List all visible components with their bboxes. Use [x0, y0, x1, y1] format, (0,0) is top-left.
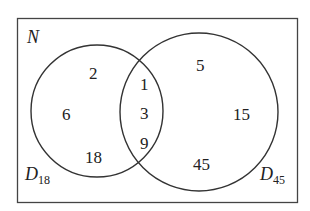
venn-diagram: N 2 6 18 1 3 9 5 15 45 D18 D45: [0, 0, 310, 211]
right-region-value: 45: [193, 155, 210, 174]
intersection-value: 9: [140, 134, 149, 153]
set-label-d18: D18: [24, 164, 50, 187]
universe-rectangle: [18, 19, 298, 203]
left-region-value: 18: [85, 148, 102, 167]
set-label-d45: D45: [259, 164, 285, 187]
intersection-value: 1: [140, 75, 149, 94]
left-region-value: 2: [89, 64, 98, 83]
universe-label: N: [26, 27, 40, 47]
right-region-value: 15: [233, 105, 250, 124]
left-region-value: 6: [62, 105, 71, 124]
right-region-value: 5: [196, 56, 205, 75]
intersection-value: 3: [140, 104, 149, 123]
